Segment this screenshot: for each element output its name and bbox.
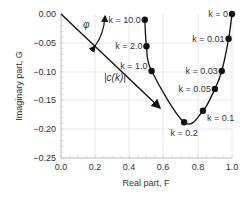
point-label: k = 2.0	[115, 41, 142, 51]
point-label: k = 10.0	[109, 15, 141, 25]
point-label: k = 0.03	[185, 66, 217, 76]
x-tick-label: 0.4	[123, 162, 136, 172]
data-point	[225, 36, 231, 42]
y-tick-label: −0.10	[33, 67, 56, 77]
x-tick-label: 0.8	[192, 162, 205, 172]
data-point	[142, 17, 148, 23]
phi-label: φ	[83, 19, 90, 30]
x-tick-label: 1.0	[226, 162, 239, 172]
y-tick-label: 0.00	[38, 9, 56, 19]
data-point	[229, 11, 235, 17]
data-point	[212, 86, 218, 92]
point-label: k = 0.05	[179, 84, 211, 94]
x-tick-label: 0.2	[89, 162, 102, 172]
point-labels: k = 0k = 0.01k = 0.03k = 0.05k = 0.1k = …	[109, 9, 235, 138]
y-tick-label: −0.05	[33, 38, 56, 48]
y-tick-labels: 0.00 −0.05 −0.10 −0.15 −0.20 −0.25	[33, 9, 56, 163]
point-label: k = 0.1	[207, 113, 234, 123]
data-point	[143, 43, 149, 49]
data-point	[219, 68, 225, 74]
nyquist-chart: 0.00 −0.05 −0.10 −0.15 −0.20 −0.25 0.0 0…	[0, 0, 248, 202]
y-tick-label: −0.15	[33, 95, 56, 105]
x-tick-label: 0.6	[157, 162, 170, 172]
x-tick-labels: 0.0 0.2 0.4 0.6 0.8 1.0	[55, 162, 239, 172]
point-label: k = 0.01	[192, 34, 224, 44]
point-label: k = 0.2	[170, 128, 197, 138]
data-point	[181, 119, 187, 125]
y-axis-title: Imaginary part, G	[14, 51, 24, 121]
x-tick-label: 0.0	[55, 162, 68, 172]
point-label: k = 0	[208, 9, 228, 19]
y-tick-label: −0.20	[33, 124, 56, 134]
magnitude-label: |c(k)|	[104, 72, 126, 83]
phase-angle-arc	[95, 16, 105, 46]
x-axis-title: Real part, F	[122, 178, 170, 188]
point-label: k = 1.0	[120, 61, 147, 71]
data-point	[200, 108, 206, 114]
data-point	[148, 68, 154, 74]
y-tick-label: −0.25	[33, 153, 56, 163]
